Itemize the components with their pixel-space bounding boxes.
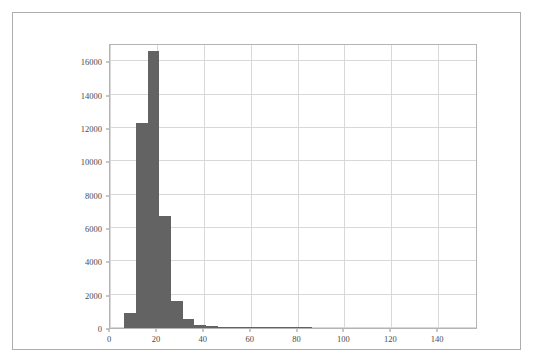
x-axis-tick-mark bbox=[155, 329, 156, 332]
y-axis-tick-label: 14000 bbox=[81, 91, 102, 100]
y-axis-tick-mark bbox=[106, 129, 109, 130]
y-axis-tick-mark bbox=[106, 229, 109, 230]
y-axis-tick-mark bbox=[106, 295, 109, 296]
x-axis-tick-mark bbox=[249, 329, 250, 332]
x-axis-tick-label: 80 bbox=[292, 335, 301, 344]
x-axis-tick-mark bbox=[343, 329, 344, 332]
y-axis-tick-label: 0 bbox=[98, 325, 102, 334]
y-axis-tick-mark bbox=[106, 62, 109, 63]
x-axis-tick-label: 140 bbox=[431, 335, 444, 344]
y-axis-tick-mark bbox=[106, 95, 109, 96]
x-axis-tick-mark bbox=[296, 329, 297, 332]
x-axis-tick-mark bbox=[109, 329, 110, 332]
y-axis-tick-label: 6000 bbox=[85, 225, 102, 234]
y-axis-tick-mark bbox=[106, 262, 109, 263]
y-axis-tick-mark bbox=[106, 162, 109, 163]
x-axis-tick-mark bbox=[437, 329, 438, 332]
histogram-screenshot: 0200040006000800010000120001400016000 02… bbox=[0, 0, 535, 363]
x-axis-tick-label: 0 bbox=[107, 335, 111, 344]
x-axis-tick-label: 100 bbox=[337, 335, 350, 344]
x-axis-tick-mark bbox=[390, 329, 391, 332]
y-axis-tick-label: 8000 bbox=[85, 191, 102, 200]
x-axis-tick-label: 120 bbox=[384, 335, 397, 344]
axes-labels: 0200040006000800010000120001400016000 02… bbox=[109, 44, 477, 329]
figure-frame: 0200040006000800010000120001400016000 02… bbox=[12, 12, 521, 350]
y-axis-tick-label: 16000 bbox=[81, 58, 102, 67]
x-axis-tick-label: 20 bbox=[152, 335, 161, 344]
x-axis-tick-label: 60 bbox=[245, 335, 254, 344]
y-axis-tick-mark bbox=[106, 195, 109, 196]
x-axis-tick-mark bbox=[202, 329, 203, 332]
x-axis-tick-label: 40 bbox=[199, 335, 208, 344]
y-axis-tick-label: 10000 bbox=[81, 158, 102, 167]
y-axis-tick-label: 4000 bbox=[85, 258, 102, 267]
y-axis-tick-label: 12000 bbox=[81, 125, 102, 134]
y-axis-tick-label: 2000 bbox=[85, 291, 102, 300]
